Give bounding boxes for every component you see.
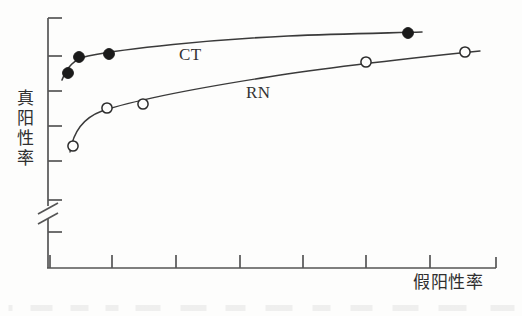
- rn-data-point: [102, 103, 112, 113]
- roc-chart-figure: CT 真 阳 性 率 假阳性率 CT RN: [0, 0, 522, 316]
- x-axis-ticks: [50, 255, 430, 268]
- y-axis-ticks: [48, 18, 62, 232]
- ct-data-point: [63, 68, 74, 79]
- rn-data-point: [68, 141, 78, 151]
- rn-data-point: [460, 47, 470, 57]
- ct-data-point: [104, 49, 115, 60]
- rn-curve-line: [70, 51, 480, 152]
- y-axis-label-char-2: 阳: [10, 108, 40, 128]
- series-label-ct: CT: [179, 45, 202, 65]
- ct-curve-line: [62, 32, 422, 80]
- y-axis-label-char-3: 性: [10, 128, 40, 148]
- y-axis-label-char-4: 率: [10, 148, 40, 168]
- ct-data-point: [403, 28, 414, 39]
- rn-data-point: [361, 57, 371, 67]
- y-axis-label-char-1: 真: [10, 88, 40, 108]
- rn-data-point: [138, 99, 148, 109]
- series-ct: [62, 28, 422, 80]
- series-label-rn: RN: [246, 83, 271, 103]
- series-rn: [68, 47, 480, 152]
- x-axis-label: 假阳性率: [413, 268, 483, 293]
- scan-artifact: [0, 305, 522, 311]
- ct-data-point: [74, 52, 85, 63]
- y-axis-label: CT 真 阳 性 率: [10, 88, 40, 168]
